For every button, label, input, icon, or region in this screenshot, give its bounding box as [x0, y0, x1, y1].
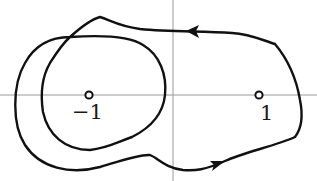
point-minus-one-marker — [85, 91, 92, 98]
contour-diagram — [0, 0, 317, 181]
point-minus-one-label: −1 — [72, 102, 103, 123]
point-one-label: 1 — [260, 103, 273, 124]
point-one-marker — [255, 91, 262, 98]
